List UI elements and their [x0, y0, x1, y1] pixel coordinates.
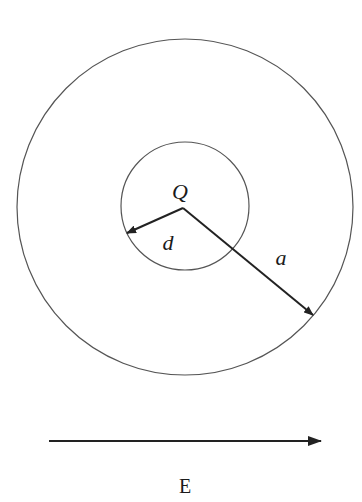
- radius-a-arrow: [183, 208, 313, 315]
- charge-label: Q: [172, 179, 188, 204]
- outer-sphere-circle: [17, 39, 353, 375]
- radius-d-label: d: [163, 230, 175, 255]
- inner-sphere-circle: [121, 142, 249, 270]
- radius-d-arrow: [127, 208, 183, 233]
- electric-field-label: E: [179, 475, 191, 497]
- diagram-canvas: Q d a E: [0, 0, 362, 502]
- radius-a-label: a: [276, 245, 287, 270]
